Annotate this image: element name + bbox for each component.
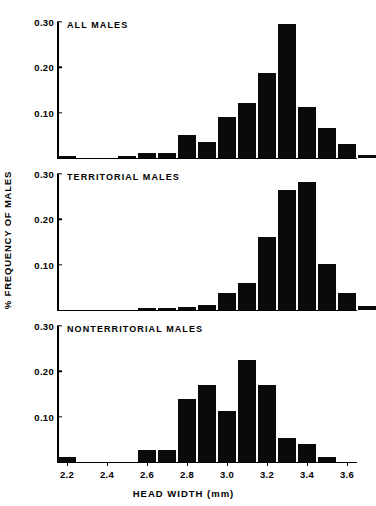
panel-title-all-males: ALL MALES <box>67 20 128 30</box>
histogram-bar <box>158 308 176 310</box>
x-tick-mark <box>187 462 188 466</box>
histogram-bar <box>178 399 196 462</box>
y-tick-label: 0.10 <box>34 107 54 118</box>
y-tick-mark <box>57 264 62 265</box>
histogram-bar <box>218 293 236 310</box>
histogram-bar <box>58 156 76 158</box>
histogram-bar <box>178 307 196 310</box>
histogram-bar <box>318 128 336 158</box>
histogram-bar <box>338 293 356 310</box>
x-tick-label: 3.0 <box>220 469 234 480</box>
x-tick-mark <box>147 462 148 466</box>
y-tick-mark <box>57 371 62 372</box>
histogram-bar <box>238 360 256 462</box>
y-axis-line <box>57 22 59 159</box>
panel-title-nonterritorial-males: NONTERRITORIAL MALES <box>67 324 203 334</box>
y-tick-mark <box>57 219 62 220</box>
panel-all-males: 0.100.200.30ALL MALES <box>57 22 357 158</box>
histogram-bar <box>258 385 276 462</box>
x-axis-line <box>57 462 357 463</box>
x-tick-label: 2.8 <box>180 469 194 480</box>
y-tick-label: 0.20 <box>34 366 54 377</box>
histogram-bar <box>158 450 176 462</box>
histogram-bar <box>318 457 336 462</box>
y-tick-label: 0.30 <box>34 321 54 332</box>
x-tick-mark <box>67 462 68 466</box>
histogram-bar <box>338 144 356 158</box>
y-tick-mark <box>57 173 62 174</box>
y-tick-label: 0.20 <box>34 62 54 73</box>
y-tick-label: 0.30 <box>34 17 54 28</box>
x-tick-label: 3.6 <box>340 469 354 480</box>
histogram-bar <box>158 153 176 158</box>
histogram-bar <box>218 117 236 158</box>
x-tick-mark <box>227 462 228 466</box>
y-tick-label: 0.20 <box>34 214 54 225</box>
y-tick-label: 0.30 <box>34 169 54 180</box>
y-tick-label: 0.10 <box>34 411 54 422</box>
panel-title-territorial-males: TERRITORIAL MALES <box>67 172 180 182</box>
y-tick-mark <box>57 21 62 22</box>
panel-territorial-males: 0.100.200.30TERRITORIAL MALES <box>57 174 357 310</box>
histogram-bar <box>198 385 216 462</box>
x-tick-label: 2.4 <box>100 469 114 480</box>
y-tick-mark <box>57 325 62 326</box>
x-tick-label: 2.6 <box>140 469 154 480</box>
panel-nonterritorial-males: 0.100.200.30NONTERRITORIAL MALES2.22.42.… <box>57 326 357 462</box>
histogram-bar <box>318 264 336 310</box>
x-tick-mark <box>307 462 308 466</box>
histogram-bar <box>358 306 376 310</box>
histogram-bar <box>138 153 156 158</box>
y-tick-mark <box>57 112 62 113</box>
histogram-bar <box>358 155 376 158</box>
y-axis-line <box>57 326 59 463</box>
y-tick-mark <box>57 67 62 68</box>
x-tick-label: 3.2 <box>260 469 274 480</box>
histogram-bar <box>138 450 156 462</box>
histogram-bar <box>298 444 316 462</box>
histogram-bar <box>238 103 256 158</box>
histogram-bar <box>218 411 236 462</box>
histogram-bar <box>238 283 256 310</box>
histogram-bar <box>198 305 216 310</box>
y-axis-title: % FREQUENCY OF MALES <box>2 150 13 330</box>
histogram-bar <box>118 156 136 158</box>
histogram-bar <box>278 190 296 310</box>
y-tick-mark <box>57 416 62 417</box>
histogram-bar <box>298 107 316 158</box>
y-axis-line <box>57 174 59 311</box>
x-tick-mark <box>267 462 268 466</box>
x-tick-label: 2.2 <box>60 469 74 480</box>
histogram-bar <box>258 237 276 310</box>
histogram-bar <box>198 142 216 158</box>
x-axis-title: HEAD WIDTH (mm) <box>0 488 367 499</box>
histogram-bar <box>138 308 156 310</box>
y-tick-label: 0.10 <box>34 259 54 270</box>
histogram-bar <box>258 73 276 158</box>
x-tick-label: 3.4 <box>300 469 314 480</box>
x-axis-line <box>57 310 357 311</box>
x-tick-mark <box>347 462 348 466</box>
histogram-bar <box>178 135 196 158</box>
histogram-bar <box>278 24 296 158</box>
x-axis-line <box>57 158 357 159</box>
x-tick-mark <box>107 462 108 466</box>
histogram-bar <box>278 438 296 462</box>
histogram-bar <box>298 182 316 310</box>
